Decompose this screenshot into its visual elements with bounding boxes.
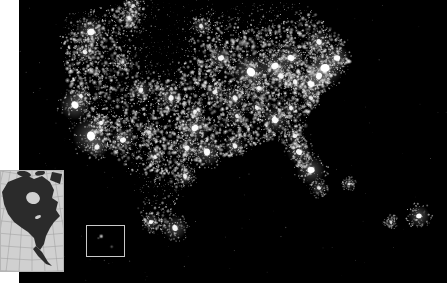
night-lights-figure <box>0 0 447 292</box>
page-bottom-margin <box>0 283 447 292</box>
locator-map-layer <box>0 170 64 272</box>
hawaii-callout-box <box>86 225 125 257</box>
hawaii-lights-layer <box>87 226 124 256</box>
north-america-locator-map <box>0 170 64 272</box>
satellite-map-panel <box>19 0 447 283</box>
city-lights-layer <box>19 0 447 283</box>
